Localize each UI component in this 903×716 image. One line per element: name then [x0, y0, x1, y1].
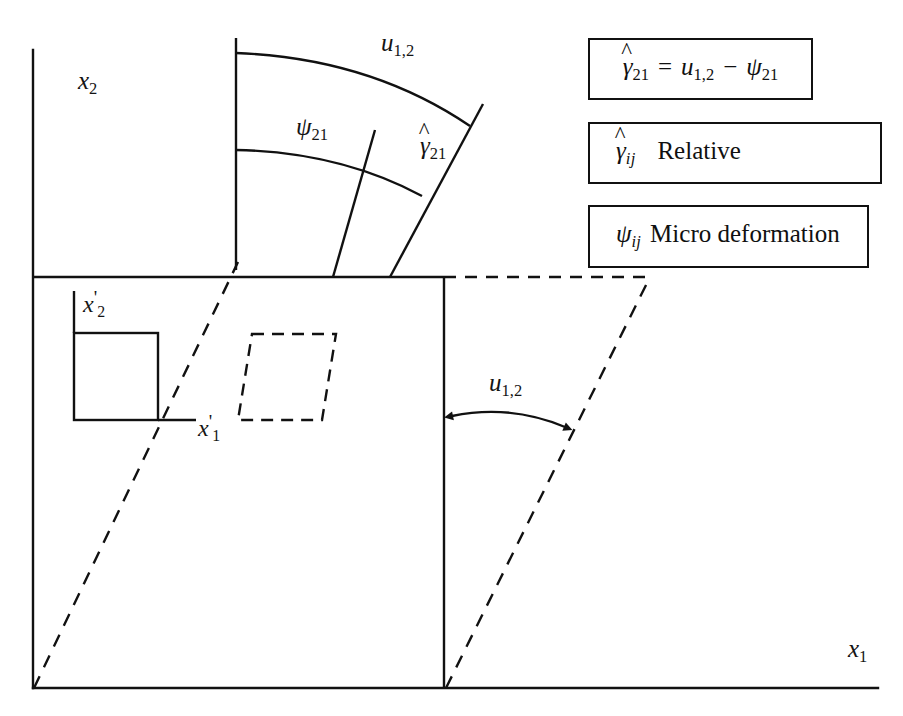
legend-micro-symbol: ψ: [616, 220, 632, 247]
fan-inner-radial-line: [333, 130, 375, 277]
legend-eq-term2-symbol: ψ: [746, 53, 762, 80]
legend-eq-term2-sub: 21: [762, 65, 779, 84]
legend-eq-lhs-group: ^γ: [623, 53, 633, 81]
fan-outer-radial-line: [390, 104, 483, 277]
axis-label-x2: x2: [78, 68, 97, 98]
legend-eq-lhs-hat: ^: [621, 39, 632, 62]
legend-eq-lhs-sub: 21: [632, 65, 649, 84]
fan-outer-arc: [236, 53, 470, 126]
axis-label-x2-prime-sub: 2: [97, 303, 105, 320]
axis-label-x1: x1: [848, 636, 867, 666]
legend-eq-minus: −: [723, 53, 737, 80]
axis-label-x2-sub: 2: [89, 79, 97, 98]
legend-relative-hat: ^: [615, 123, 626, 146]
legend-micro-sub: ij: [632, 233, 642, 252]
figure-canvas: x2 x1 x'2 x'1 u1,2 ψ21 ^γ21 u1,2 ^γ21=u1…: [0, 0, 903, 716]
fan-outer-arc-label: u1,2: [381, 30, 414, 60]
fan-wedge-label: ^γ21: [420, 133, 446, 163]
legend-relative-symbol-group: ^γ: [616, 137, 626, 165]
axis-label-x2-symbol: x: [78, 67, 89, 94]
displacement-double-arrow: [452, 412, 565, 427]
fan-wedge-label-symbol-group: ^γ: [420, 133, 430, 158]
fan-inner-arc-label-sub: 21: [312, 125, 329, 144]
diagram-linework: [0, 0, 903, 716]
legend-eq-term1-symbol: u: [681, 53, 694, 80]
legend-eq-term1-sub: 1,2: [694, 65, 715, 84]
legend-box-relative-definition: ^γijRelative: [588, 122, 882, 184]
legend-eq-equals: =: [658, 53, 672, 80]
undeformed-square: [74, 333, 158, 420]
fan-outer-arc-label-symbol: u: [381, 29, 394, 56]
legend-box-relative-deformation-equation: ^γ21=u1,2−ψ21: [588, 38, 813, 100]
legend-micro-description: Micro deformation: [650, 220, 840, 247]
dashed-shear-line-left: [34, 262, 238, 688]
axis-label-x1-sub: 1: [859, 647, 867, 666]
fan-outer-arc-label-sub: 1,2: [394, 41, 415, 60]
fan-inner-arc-label: ψ21: [296, 114, 328, 144]
axis-label-x1-prime-symbol: x: [198, 415, 209, 441]
dashed-shear-line-right: [446, 277, 650, 688]
deformed-parallelogram: [238, 334, 336, 420]
axis-label-x2-prime-symbol: x: [83, 291, 94, 317]
legend-equation-text: ^γ21=u1,2−ψ21: [623, 53, 779, 85]
displacement-arrow-label-symbol: u: [489, 369, 502, 396]
legend-micro-text: ψijMicro deformation: [590, 220, 867, 252]
displacement-arrow-label: u1,2: [489, 370, 522, 400]
fan-wedge-label-hat: ^: [419, 119, 430, 142]
axis-label-x1-symbol: x: [848, 635, 859, 662]
fan-inner-arc: [236, 150, 422, 196]
legend-relative-sub: ij: [626, 149, 636, 168]
legend-box-micro-deformation-definition: ψijMicro deformation: [588, 205, 869, 268]
fan-wedge-label-sub: 21: [430, 144, 447, 163]
legend-relative-text: ^γijRelative: [590, 137, 880, 169]
axis-label-x1-prime: x'1: [198, 412, 220, 444]
axis-label-x2-prime: x'2: [83, 288, 105, 320]
legend-relative-description: Relative: [657, 137, 740, 164]
displacement-arrow-path: [452, 412, 565, 427]
fan-inner-arc-label-symbol: ψ: [296, 113, 312, 140]
axis-label-x1-prime-sub: 1: [212, 427, 220, 444]
displacement-arrow-label-sub: 1,2: [502, 381, 523, 400]
